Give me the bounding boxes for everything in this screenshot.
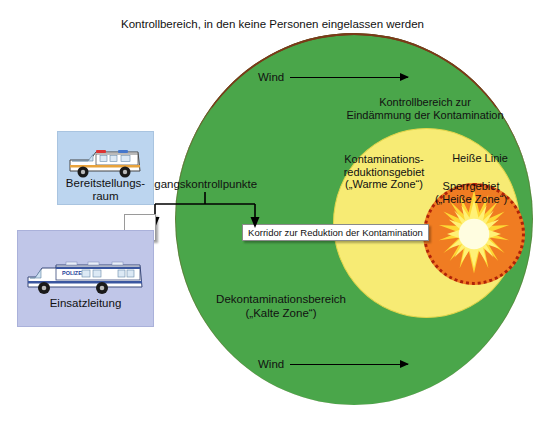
wind-arrow-line-top (290, 77, 408, 78)
label-containment-line1: Kontrollbereich zur (330, 96, 520, 109)
label-cold-line2: („Kalte Zone“) (195, 306, 367, 320)
wind-label-bottom: Wind (258, 358, 284, 370)
diagram-canvas: Kontrollbereich, in den keine Personen e… (0, 0, 545, 444)
wind-arrow-top: Wind (258, 71, 408, 83)
label-cold-zone: Dekontaminationsbereich („Kalte Zone“) (195, 292, 367, 320)
facility-bereitstellungsraum: Bereitstellungs- raum (57, 131, 154, 205)
police-command-truck-icon: POLIZEI (26, 257, 146, 301)
label-hot-line1: Sperrgebiet (418, 180, 524, 193)
wind-arrow-bottom: Wind (258, 358, 408, 370)
label-hot-zone: Sperrgebiet („Heiße Zone“) (418, 180, 524, 205)
label-cold-line1: Dekontaminationsbereich (195, 292, 367, 306)
facility-label-bereitstellungsraum-line1: Bereitstellungs- (58, 177, 153, 190)
facility-label-bereitstellungsraum: Bereitstellungs- raum (58, 177, 153, 203)
label-access-control-points: Zugangskontrollpunkte (138, 178, 260, 190)
wind-label-top: Wind (258, 71, 284, 83)
label-hot-line2: („Heiße Zone“) (418, 193, 524, 206)
svg-text:POLIZEI: POLIZEI (62, 270, 84, 276)
access-control-bracket (150, 192, 260, 230)
facility-label-einsatzleitung-line1: Einsatzleitung (18, 297, 153, 310)
wind-arrow-line-bottom (290, 364, 408, 365)
label-hot-line: Heiße Linie (428, 152, 532, 164)
facility-label-bereitstellungsraum-line2: raum (58, 190, 153, 203)
corridor-label: Korridor zur Reduktion der Kontamination (242, 224, 429, 241)
facility-label-einsatzleitung: Einsatzleitung (18, 297, 153, 310)
label-warm-line2: reduktionsgebiet (330, 166, 438, 179)
label-containment-line2: Eindämmung der Kontamination (330, 109, 520, 122)
page-title: Kontrollbereich, in den keine Personen e… (0, 18, 545, 30)
facility-einsatzleitung: POLIZEI Einsatzleitung (17, 230, 154, 327)
label-warm-line1: Kontaminations- (330, 153, 438, 166)
label-containment-area: Kontrollbereich zur Eindämmung der Konta… (330, 96, 520, 122)
